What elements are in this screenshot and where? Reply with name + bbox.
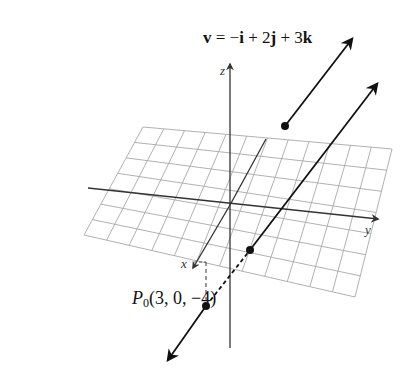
vector-v-tail-point <box>281 122 289 130</box>
unit-k: k <box>303 28 312 47</box>
x-axis-label: x <box>181 256 187 272</box>
vector-equation-label: v = −i + 2j + 3k <box>203 28 312 48</box>
term-2: + 2 <box>244 28 271 47</box>
diagram-canvas <box>0 0 410 376</box>
point-coords: (3, 0, −4) <box>149 288 216 308</box>
x-axis <box>193 205 230 268</box>
z-axis-label: z <box>220 63 225 79</box>
equals-sign: = <box>216 28 226 47</box>
point-on-line <box>246 246 254 254</box>
point-name: P <box>132 288 143 308</box>
y-axis-label: y <box>365 222 371 238</box>
vector-name: v <box>203 28 212 47</box>
xy-plane-grid <box>84 127 392 297</box>
term-sign: − <box>230 28 240 47</box>
vector-v-arrow <box>285 39 352 126</box>
point-p0-label: P0(3, 0, −4) <box>132 288 216 311</box>
term-3: + 3 <box>276 28 303 47</box>
line-through-p0-lower <box>168 306 206 360</box>
y-axis <box>88 188 378 219</box>
